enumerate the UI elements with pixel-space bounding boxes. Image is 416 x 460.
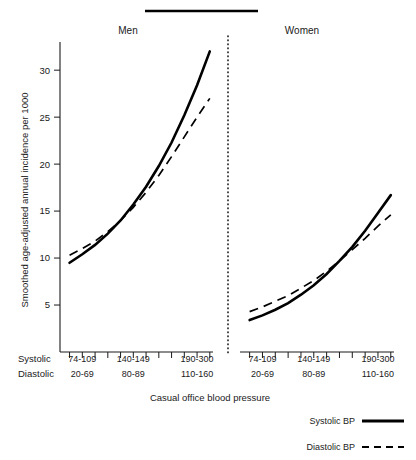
x-cat-label-diastolic: 20-69 bbox=[71, 369, 94, 379]
x-cat-label-diastolic: 20-69 bbox=[251, 369, 274, 379]
y-tick-label: 20 bbox=[39, 159, 50, 170]
y-tick-label: 5 bbox=[45, 299, 50, 310]
series-solid-men bbox=[70, 51, 210, 262]
x-cat-label-systolic: 74-109 bbox=[248, 354, 276, 364]
series-dashed-men bbox=[70, 98, 210, 255]
series-group-men bbox=[70, 51, 210, 262]
panel-label-women: Women bbox=[285, 25, 319, 36]
x-cat-label-systolic: 190-300 bbox=[181, 354, 214, 364]
chart-figure: Men Women Smoothed age-adjusted annual i… bbox=[0, 0, 416, 460]
x-cat-label-systolic: 140-149 bbox=[117, 354, 150, 364]
row-label-systolic: Systolic bbox=[18, 353, 51, 364]
x-cat-label-diastolic: 110-160 bbox=[181, 369, 213, 379]
x-cat-label-diastolic: 80-89 bbox=[302, 369, 325, 379]
y-tick-label: 15 bbox=[39, 205, 50, 216]
legend-label-systolic: Systolic BP bbox=[309, 416, 355, 426]
x-cat-label-diastolic: 80-89 bbox=[122, 369, 145, 379]
x-cat-label-systolic: 140-149 bbox=[297, 354, 330, 364]
legend: Systolic BP Diastolic BP bbox=[306, 416, 404, 452]
y-tick-label: 30 bbox=[39, 65, 50, 76]
series-group-women bbox=[250, 195, 391, 320]
x-cat-label-systolic: 74-109 bbox=[68, 354, 96, 364]
x-cat-label-diastolic: 110-160 bbox=[362, 369, 394, 379]
row-label-diastolic: Diastolic bbox=[18, 368, 54, 379]
x-cat-label-systolic: 190-300 bbox=[361, 354, 394, 364]
chart-svg: Men Women Smoothed age-adjusted annual i… bbox=[0, 0, 416, 460]
y-axis-title: Smoothed age-adjusted annual incidence p… bbox=[19, 93, 30, 308]
x-category-labels: 74-10920-69140-14980-89190-300110-16074-… bbox=[68, 354, 394, 379]
y-tick-label: 25 bbox=[39, 112, 50, 123]
series-solid-women bbox=[250, 195, 391, 320]
y-tick-label: 10 bbox=[39, 252, 50, 263]
y-axis-ticks: 51015202530 bbox=[39, 65, 60, 311]
panel-label-men: Men bbox=[118, 25, 137, 36]
series-dashed-women bbox=[250, 215, 391, 312]
legend-label-diastolic: Diastolic BP bbox=[306, 442, 355, 452]
x-axis-title: Casual office blood pressure bbox=[150, 392, 270, 403]
